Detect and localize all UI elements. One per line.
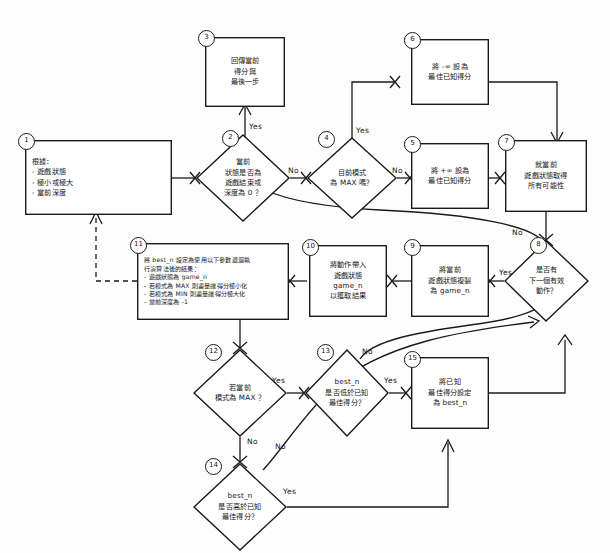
node-1-badge: 1 <box>18 133 35 150</box>
edge-label-12-yes: Yes <box>272 376 285 385</box>
edge-label-2-no: No <box>288 166 299 175</box>
node-8-badge: 8 <box>530 237 547 254</box>
edge-14-to-15 <box>287 443 448 507</box>
edge-label-2-yes: Yes <box>249 122 262 131</box>
edge-label-12-no: No <box>247 437 258 446</box>
node-5-shape <box>411 143 489 209</box>
node-12-badge: 12 <box>205 344 222 361</box>
edge-label-4-no: No <box>392 166 403 175</box>
node-11[interactable]: 將 best_n 設定為使用以下參數遞迴執 行演算法後的結果： - 遊戲狀態為 … <box>137 243 289 320</box>
node-2-badge: 2 <box>222 130 239 147</box>
edge-label-8-no: No <box>512 228 523 237</box>
node-10[interactable]: 將動作帶入 遊戲狀態 game_n 以獲取結果 <box>309 245 387 317</box>
node-7[interactable]: 就當前 遊戲狀態取得 所有可能性 <box>505 140 587 212</box>
node-10-badge: 10 <box>302 239 319 256</box>
node-11-badge: 11 <box>130 237 147 254</box>
node-12-shape <box>193 349 287 437</box>
node-4-shape <box>307 137 397 219</box>
edge-label-14-yes: Yes <box>283 487 296 496</box>
node-5[interactable]: 將 +∞ 設為 最佳已知得分 <box>411 143 489 209</box>
edge-4-to-6 <box>352 82 396 145</box>
node-3[interactable]: 回傳當前 得分與 最後一步 <box>205 37 285 107</box>
node-12[interactable]: 若當前 模式為 MAX ？ <box>193 349 287 437</box>
node-4-badge: 4 <box>318 131 335 148</box>
edge-label-8-yes: Yes <box>499 268 512 277</box>
node-7-badge: 7 <box>498 134 515 151</box>
node-7-shape <box>505 140 587 212</box>
node-6-shape <box>411 39 489 105</box>
node-14-shape <box>193 463 287 551</box>
edge-6-to-7 <box>489 82 557 140</box>
edge-12-no-to-8 <box>263 322 534 470</box>
node-4[interactable]: 目前模式 為 MAX 嗎？ <box>307 137 397 219</box>
node-1[interactable]: 根據： - 遊戲狀態 - 極小或極大 - 當前深度 <box>25 140 172 215</box>
edge-label-4-yes: Yes <box>356 126 369 135</box>
node-5-badge: 5 <box>404 136 421 153</box>
node-2-shape <box>196 134 290 222</box>
node-11-shape <box>137 243 289 320</box>
node-8[interactable]: 是否有 下一個有效 動作？ <box>504 240 589 322</box>
node-15[interactable]: 將已知 最佳得分設定 為 best_n <box>411 357 489 429</box>
node-3-badge: 3 <box>198 30 215 47</box>
node-8-shape <box>504 240 589 322</box>
node-6[interactable]: 將 -∞ 設為 最佳已知得分 <box>411 39 489 105</box>
node-9-badge: 9 <box>404 239 421 256</box>
edge-label-14-no-branch: No <box>275 442 286 451</box>
node-2[interactable]: 當前 狀態是否為 遊戲結束或 深度為 0 ？ <box>196 134 290 222</box>
node-13-shape <box>305 349 389 437</box>
edge-15-to-8 <box>489 340 565 393</box>
edge-label-13-yes: Yes <box>384 376 397 385</box>
node-9[interactable]: 將當前 遊戲狀態複製 為 game_n <box>411 245 489 317</box>
node-1-shape <box>25 140 172 215</box>
node-14-badge: 14 <box>205 458 222 475</box>
node-6-badge: 6 <box>404 32 421 49</box>
node-13[interactable]: best_n 是否低於已知 最佳得分？ <box>305 349 389 437</box>
node-15-shape <box>411 357 489 429</box>
flowchart-canvas: 根據： - 遊戲狀態 - 極小或極大 - 當前深度 1 當前 狀態是否為 遊戲結… <box>0 0 610 553</box>
node-15-badge: 15 <box>404 351 421 368</box>
edge-label-13-no: No <box>362 347 373 356</box>
node-10-shape <box>309 245 387 317</box>
node-3-shape <box>205 37 285 107</box>
node-9-shape <box>411 245 489 317</box>
node-14[interactable]: best_n 是否高於已知 最佳得分？ <box>193 463 287 551</box>
node-13-badge: 13 <box>317 344 334 361</box>
